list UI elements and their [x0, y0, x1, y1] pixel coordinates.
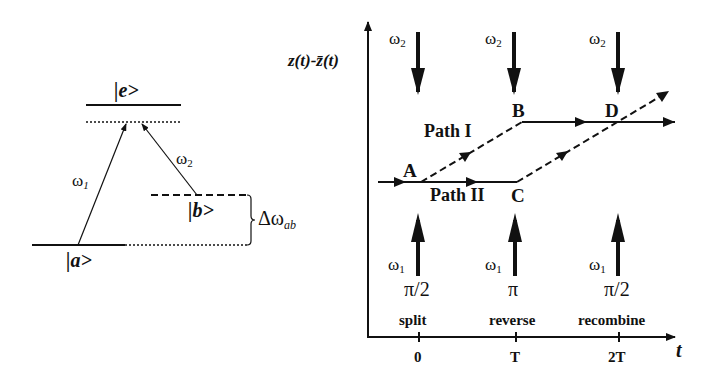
diagram-canvas: [0, 0, 713, 386]
path2-dashed: [517, 93, 666, 182]
stage-label-split: split: [399, 313, 427, 328]
energy-level-diagram: [32, 105, 255, 245]
splitting-label: Δωab: [258, 208, 296, 231]
beam1-label: ω1: [72, 172, 89, 191]
point-d-label: D: [605, 101, 619, 120]
pulse-phase-2T: π/2: [604, 279, 630, 299]
point-c-label: C: [511, 186, 525, 205]
path1-label: Path I: [424, 122, 472, 140]
x-tick-label-2T: 2T: [608, 350, 626, 365]
x-tick-label-T: T: [510, 350, 520, 365]
pulse-arrows: [411, 32, 625, 276]
pulse-bottom-label-0: ω1: [388, 256, 405, 275]
x-tick-label-0: 0: [414, 350, 422, 365]
ground-state-b-label: |b>: [188, 200, 214, 220]
pulse-top-label-T: ω2: [485, 30, 502, 49]
pulse-top-label-2T: ω2: [589, 30, 606, 49]
pulse-bottom-label-T: ω1: [485, 256, 502, 275]
point-b-label: B: [512, 101, 525, 120]
y-axis-label: z(t)-z̄(t): [288, 52, 339, 69]
x-axis-label: t: [676, 340, 682, 360]
beam2-label: ω2: [176, 150, 193, 169]
trajectories: [378, 91, 675, 187]
splitting-brace: [247, 195, 255, 245]
point-a-label: A: [403, 161, 417, 180]
path2-label: Path II: [430, 186, 485, 204]
stage-label-reverse: reverse: [489, 313, 535, 328]
excited-state-label: |e>: [114, 80, 139, 100]
pulse-bottom-label-2T: ω1: [589, 256, 606, 275]
pulse-phase-0: π/2: [404, 279, 430, 299]
ground-state-a-label: |a>: [66, 250, 92, 270]
pulse-top-label-0: ω2: [389, 30, 406, 49]
pulse-phase-T: π: [508, 279, 518, 299]
stage-label-recombine: recombine: [578, 313, 645, 328]
